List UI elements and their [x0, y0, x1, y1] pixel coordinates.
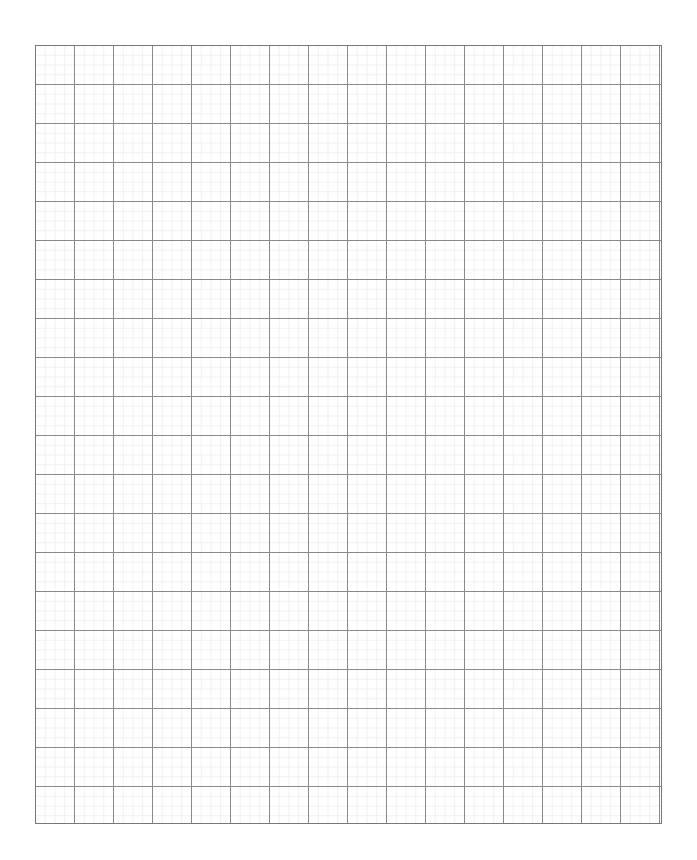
grid-border	[35, 45, 662, 824]
page-sheet	[0, 0, 697, 860]
minor-gridlines-layer	[35, 45, 662, 824]
major-gridlines-layer	[35, 45, 662, 824]
graph-paper-grid	[35, 45, 662, 824]
